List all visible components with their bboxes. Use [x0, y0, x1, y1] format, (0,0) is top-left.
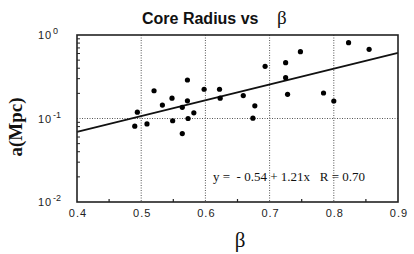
- data-point: [180, 131, 185, 136]
- data-point: [217, 87, 222, 92]
- y-tick-exponent: 0: [53, 26, 58, 36]
- x-axis-label: β: [235, 228, 246, 252]
- x-tick-labels: 0.40.50.60.70.80.9: [69, 207, 408, 219]
- y-axis-label: a(Mpc): [5, 97, 27, 156]
- data-point: [285, 92, 290, 97]
- data-point: [144, 121, 149, 126]
- data-point: [202, 87, 207, 92]
- data-point: [298, 49, 303, 54]
- data-point: [283, 60, 288, 65]
- chart-title-symbol: β: [277, 7, 287, 28]
- x-tick-label: 0.5: [133, 207, 151, 219]
- chart-title: Core Radius vs: [142, 10, 259, 27]
- x-tick-label: 0.9: [390, 207, 408, 219]
- y-tick-exponent: -2: [53, 193, 61, 203]
- data-point: [160, 102, 165, 107]
- data-point: [185, 77, 190, 82]
- fit-line: [77, 53, 398, 132]
- data-point: [250, 116, 255, 121]
- fit-equation: y = - 0.54 + 1.21x R = 0.70: [213, 169, 365, 184]
- x-tick-label: 0.6: [197, 207, 215, 219]
- x-tick-label: 0.4: [69, 207, 87, 219]
- data-point: [283, 75, 288, 80]
- data-point: [252, 103, 257, 108]
- y-tick-label: 10: [38, 196, 52, 208]
- y-tick-exponent: -1: [53, 110, 61, 120]
- y-tick-labels: 10010-110-2: [38, 26, 61, 208]
- scatter-chart: Core Radius vs β 0.40.50.60.70.80.9 1001…: [0, 0, 414, 254]
- data-point: [135, 110, 140, 115]
- data-point: [321, 90, 326, 95]
- x-tick-label: 0.8: [326, 207, 344, 219]
- data-point: [218, 96, 223, 101]
- data-point: [185, 116, 190, 121]
- data-point: [331, 98, 336, 103]
- data-point: [241, 93, 246, 98]
- data-point: [346, 40, 351, 45]
- data-point: [169, 96, 174, 101]
- data-point: [170, 118, 175, 123]
- y-tick-label: 10: [38, 113, 52, 125]
- data-point: [263, 64, 268, 69]
- data-point: [132, 124, 137, 129]
- data-point: [180, 105, 185, 110]
- data-point: [185, 98, 190, 103]
- regression-line: [77, 53, 398, 132]
- data-point: [191, 110, 196, 115]
- data-point: [367, 47, 372, 52]
- data-point: [151, 88, 156, 93]
- y-tick-label: 10: [38, 29, 52, 41]
- x-tick-label: 0.7: [261, 207, 279, 219]
